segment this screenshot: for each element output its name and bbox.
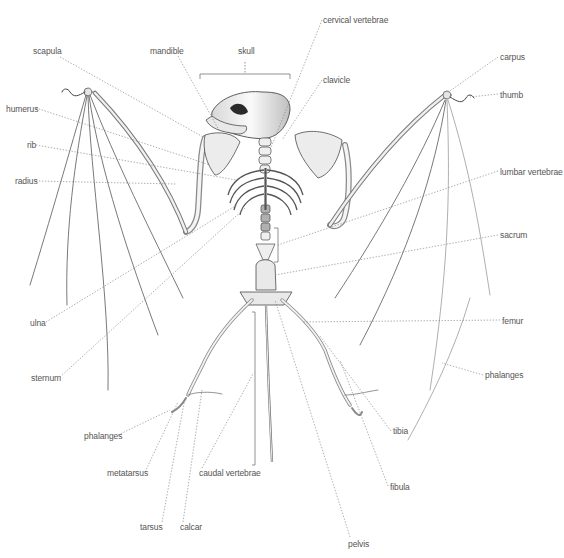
- label-phalanges-left: phalanges: [84, 431, 122, 441]
- label-ulna: ulna: [30, 318, 46, 328]
- label-lumbar-vertebrae: lumbar vertebrae: [500, 167, 563, 177]
- label-scapula: scapula: [33, 46, 62, 56]
- caudal-tail: [266, 305, 272, 462]
- label-phalanges-right: phalanges: [485, 370, 523, 380]
- label-fibula: fibula: [390, 482, 410, 492]
- label-pelvis: pelvis: [348, 539, 369, 549]
- label-mandible: mandible: [150, 46, 184, 56]
- label-calcar: calcar: [180, 522, 202, 532]
- bat-skeleton-diagram: scapula mandible skull cervical vertebra…: [0, 0, 564, 558]
- skull-bracket: [200, 74, 290, 79]
- label-skull: skull: [238, 46, 255, 56]
- skeleton-illustration: [0, 0, 564, 558]
- left-wing: [30, 88, 205, 390]
- label-tibia: tibia: [393, 426, 408, 436]
- label-radius: radius: [15, 176, 38, 186]
- label-rib: rib: [27, 140, 36, 150]
- legs: [172, 300, 378, 415]
- label-cervical-vertebrae: cervical vertebrae: [323, 15, 388, 25]
- label-sacrum: sacrum: [500, 230, 527, 240]
- caudal-bracket: [252, 312, 255, 465]
- label-humerus: humerus: [6, 104, 38, 114]
- right-wing: [330, 91, 490, 440]
- pelvis: [240, 260, 292, 305]
- label-femur: femur: [502, 316, 523, 326]
- label-tarsus: tarsus: [140, 522, 163, 532]
- label-sternum: sternum: [31, 373, 61, 383]
- label-caudal-vertebrae: caudal vertebrae: [199, 468, 261, 478]
- label-metatarsus: metatarsus: [107, 468, 148, 478]
- label-clavicle: clavicle: [323, 75, 350, 85]
- label-carpus: carpus: [500, 52, 525, 62]
- label-thumb: thumb: [500, 90, 523, 100]
- rib-cage: [228, 168, 303, 215]
